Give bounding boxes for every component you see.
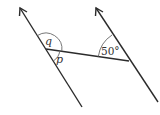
left-parallel-line (20, 8, 82, 107)
parallel-lines-diagram: q p 50° (0, 0, 160, 115)
angle-50-label: 50° (101, 45, 120, 57)
angle-p-label: p (56, 53, 63, 66)
angle-q-label: q (45, 35, 52, 48)
